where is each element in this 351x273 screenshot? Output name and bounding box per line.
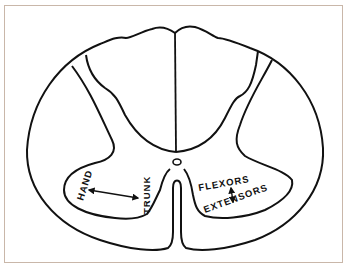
central-canal bbox=[173, 159, 181, 165]
dorsal-horn-right-inner bbox=[176, 51, 258, 152]
label-trunk: TRUNK bbox=[141, 176, 152, 214]
spinal-cord-diagram: HAND TRUNK FLEXORS EXTENSORS bbox=[0, 0, 351, 273]
posterior-median-septum bbox=[175, 33, 176, 152]
hand-trunk-double-arrow bbox=[89, 190, 138, 198]
dorsal-horn-left-inner bbox=[86, 55, 176, 152]
label-hand: HAND bbox=[74, 168, 94, 201]
